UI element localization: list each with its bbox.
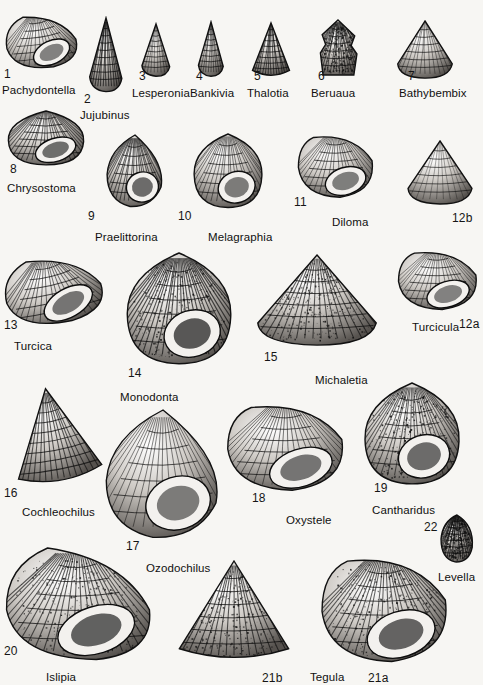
genus-label: Cantharidus (372, 505, 435, 517)
genus-label: Lesperonia (132, 88, 190, 100)
genus-label: Beruaua (311, 88, 355, 100)
figure-number: 7 (408, 70, 415, 82)
shell-figure (172, 558, 296, 666)
genus-label: Michaletia (315, 375, 368, 387)
figure-number: 11 (294, 196, 307, 208)
figure-number: 22 (424, 521, 438, 533)
figure-number: 15 (264, 351, 278, 363)
genus-label: Tegula (310, 672, 345, 684)
figure-number: 12a (459, 318, 480, 330)
figure-number: 20 (4, 645, 18, 657)
shell-figure (6, 108, 86, 166)
figure-number: 3 (139, 70, 146, 82)
genus-label: Thalotia (247, 88, 289, 100)
genus-label: Oxystele (286, 515, 332, 527)
genus-label: Turcicula (412, 322, 459, 334)
genus-label: Chrysostoma (7, 183, 76, 195)
shell-figure (100, 408, 226, 540)
shell-figure (396, 248, 480, 312)
shell-figure (296, 132, 376, 200)
shell-figure (84, 16, 128, 94)
genus-label: Melagraphia (208, 232, 272, 244)
shell-figure (124, 250, 234, 366)
genus-label: Pachydontella (2, 85, 76, 97)
genus-label: Bankivia (190, 88, 234, 100)
shell-figure (224, 400, 348, 494)
shell-figure (362, 380, 462, 486)
figure-number: 8 (10, 163, 17, 175)
figure-number: 9 (88, 210, 95, 222)
shell-figure (254, 252, 380, 348)
figure-number: 1 (4, 68, 11, 80)
genus-label: Praelittorina (95, 232, 158, 244)
genus-label: Cochleochilus (22, 507, 95, 519)
figure-number: 16 (4, 487, 18, 499)
figure-number: 21a (368, 672, 389, 684)
shell-figure (0, 7, 81, 75)
shell-figure (406, 138, 474, 206)
figure-number: 14 (128, 367, 142, 379)
figure-number: 4 (196, 70, 203, 82)
genus-label: Islipia (46, 672, 76, 684)
figure-number: 12b (452, 212, 473, 224)
figure-number: 19 (374, 482, 388, 494)
figure-number: 18 (252, 492, 266, 504)
figure-number: 21b (262, 672, 283, 684)
figure-number: 10 (178, 210, 192, 222)
figure-number: 6 (318, 70, 325, 82)
genus-label: Jujubinus (80, 110, 130, 122)
shell-figure (0, 377, 110, 496)
shell-figure (396, 18, 454, 80)
genus-label: Turcica (14, 341, 52, 353)
figure-number: 13 (4, 319, 18, 331)
shell-figure (192, 131, 264, 209)
genus-label: Monodonta (120, 392, 178, 404)
figure-number: 5 (254, 70, 261, 82)
shell-figure (104, 133, 166, 208)
shell-figure (2, 545, 154, 663)
genus-label: Bathybembix (399, 88, 467, 100)
illustration-plate: 1Pachydontella 2Jujubinus (0, 0, 483, 685)
figure-number: 2 (84, 93, 91, 105)
genus-label: Diloma (332, 217, 368, 229)
shell-figure (318, 552, 452, 666)
